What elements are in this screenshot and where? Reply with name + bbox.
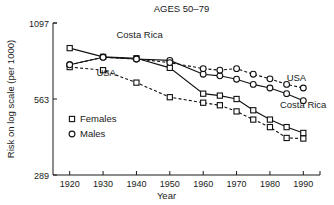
x-axis-tick-label: 1960 — [193, 179, 213, 189]
legend-marker-males — [69, 131, 75, 137]
data-point-marker — [284, 135, 289, 140]
data-point-marker — [217, 103, 222, 108]
data-point-marker — [267, 117, 272, 122]
x-axis-tick-label: 1980 — [260, 179, 280, 189]
series-annotation-label: Costa Rica — [116, 29, 163, 40]
series-annotation-label: Costa Rica — [280, 99, 327, 110]
data-point-marker — [234, 66, 240, 72]
data-point-marker — [251, 117, 256, 122]
y-axis-tick-label: 563 — [34, 95, 49, 105]
data-point-marker — [201, 91, 206, 96]
data-point-marker — [301, 130, 306, 135]
legend-marker-females — [69, 116, 74, 121]
y-axis-label: Risk on log scale (per 1000) — [5, 40, 16, 158]
data-point-marker — [217, 73, 223, 79]
data-point-marker — [301, 136, 306, 141]
data-point-marker — [201, 100, 206, 105]
data-point-marker — [267, 125, 272, 130]
data-point-marker — [100, 54, 106, 60]
data-point-marker — [300, 85, 306, 91]
series-annotation-label: USA — [96, 67, 116, 78]
data-point-marker — [200, 71, 206, 77]
series-annotation-label: USA — [287, 72, 307, 83]
data-point-marker — [67, 46, 72, 51]
x-axis-tick-label: 1940 — [126, 179, 146, 189]
data-point-marker — [250, 71, 256, 77]
data-point-marker — [234, 109, 239, 114]
data-point-marker — [234, 96, 239, 101]
data-point-marker — [134, 56, 140, 62]
data-point-marker — [167, 95, 172, 100]
legend-label-males: Males — [80, 128, 106, 139]
data-point-marker — [200, 66, 206, 72]
x-axis-tick-label: 1990 — [293, 179, 313, 189]
x-axis-tick-label: 1930 — [93, 179, 113, 189]
x-axis-tick-label: 1970 — [227, 179, 247, 189]
data-point-marker — [234, 76, 240, 82]
data-point-marker — [267, 85, 273, 91]
x-axis-label: Year — [157, 190, 176, 201]
data-point-marker — [217, 67, 223, 73]
data-point-marker — [251, 108, 256, 113]
chart-figure: AGES 50–79289563109719201930194019501960… — [0, 0, 334, 205]
y-axis-tick-label: 1097 — [29, 19, 49, 29]
y-axis-tick-label: 289 — [34, 171, 49, 181]
log-line-chart: AGES 50–79289563109719201930194019501960… — [0, 0, 334, 205]
data-point-marker — [217, 93, 222, 98]
data-point-marker — [250, 82, 256, 88]
legend-label-females: Females — [80, 113, 117, 124]
data-point-marker — [167, 60, 173, 66]
chart-title: AGES 50–79 — [154, 3, 209, 14]
data-point-marker — [67, 62, 73, 68]
data-point-marker — [284, 91, 290, 97]
x-axis-tick-label: 1920 — [60, 179, 80, 189]
data-point-marker — [134, 80, 139, 85]
x-axis-tick-label: 1950 — [160, 179, 180, 189]
data-point-marker — [267, 76, 273, 82]
data-point-marker — [284, 125, 289, 130]
